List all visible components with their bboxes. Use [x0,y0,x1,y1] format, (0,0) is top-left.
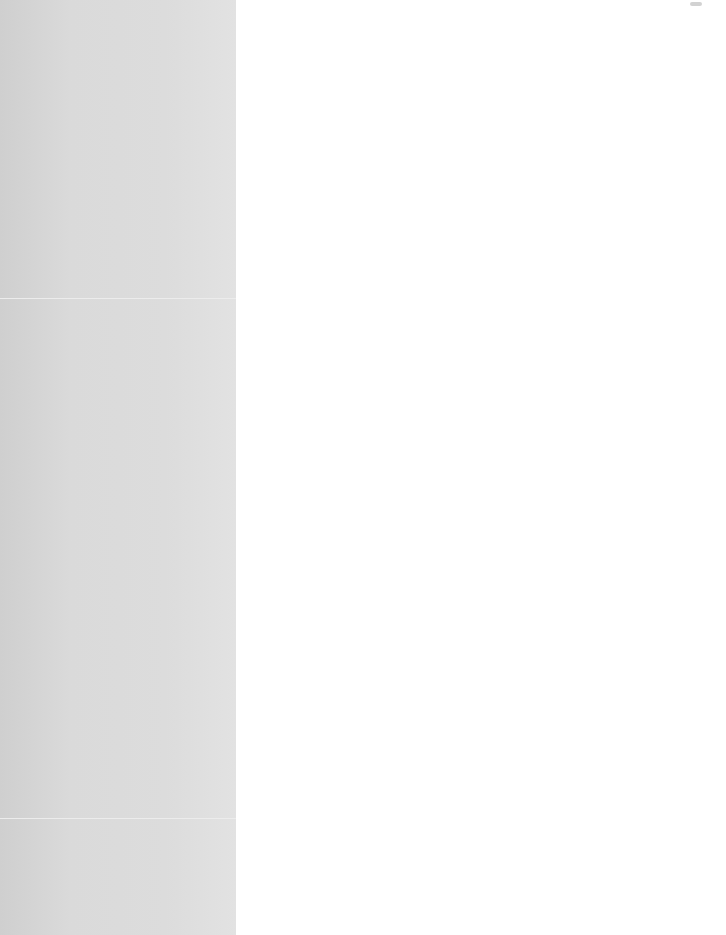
sidebar-section-middle [0,299,236,818]
top-right-indicator [690,1,702,7]
sidebar-section-bottom [0,819,236,935]
sidebar-section-top [0,0,236,298]
status-icon [690,2,702,6]
main-content-area [236,0,726,935]
sidebar-panel [0,0,236,935]
